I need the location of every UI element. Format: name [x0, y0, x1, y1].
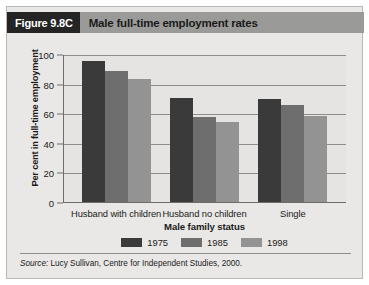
x-axis-title: Male family status [63, 221, 346, 232]
legend-item: 1985 [181, 237, 228, 248]
y-tick-label: 100 [38, 50, 63, 61]
source-label: Source: [20, 259, 48, 268]
bar [304, 116, 327, 203]
y-axis-line [63, 55, 64, 203]
source-divider [20, 253, 351, 254]
y-tick-label: 20 [43, 168, 63, 179]
bar [128, 79, 151, 203]
x-axis-line [63, 202, 346, 203]
bar [258, 99, 281, 203]
x-axis-label: Single [233, 208, 353, 219]
legend-swatch [121, 238, 142, 247]
chart-area: Per cent in full-time employment 0204060… [7, 39, 364, 249]
figure-number-badge: Figure 9.8C [7, 12, 80, 33]
y-tick-label: 60 [43, 109, 63, 120]
y-tick-label: 40 [43, 138, 63, 149]
figure-panel: Figure 9.8C Male full-time employment ra… [6, 6, 363, 279]
figure-title: Male full-time employment rates [80, 12, 258, 33]
bars-layer [63, 55, 346, 203]
y-tick-label: 0 [49, 198, 63, 209]
source-note: Source: Lucy Sullivan, Centre for Indepe… [20, 259, 242, 268]
legend-item: 1998 [241, 237, 288, 248]
legend-swatch [241, 238, 262, 247]
bar-group [170, 55, 239, 203]
figure-header: Figure 9.8C Male full-time employment ra… [7, 12, 364, 33]
bar [193, 117, 216, 203]
plot-area: 020406080100 [63, 55, 346, 203]
bar-group [258, 55, 327, 203]
legend-label: 1975 [147, 237, 168, 248]
bar [170, 98, 193, 203]
y-axis-title: Per cent in full-time employment [30, 43, 40, 193]
bar [281, 105, 304, 203]
bar [105, 71, 128, 203]
bar [216, 122, 239, 203]
bar-group [82, 55, 151, 203]
bar [82, 61, 105, 203]
legend-item: 1975 [121, 237, 168, 248]
chart-legend: 197519851998 [63, 237, 346, 248]
source-text: Lucy Sullivan, Centre for Independent St… [51, 259, 243, 268]
y-tick-label: 80 [43, 79, 63, 90]
legend-label: 1998 [267, 237, 288, 248]
legend-swatch [181, 238, 202, 247]
legend-label: 1985 [207, 237, 228, 248]
